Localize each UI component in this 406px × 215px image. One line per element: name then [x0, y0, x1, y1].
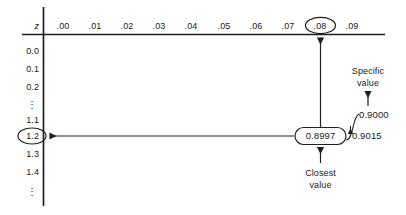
z-table-lookup-figure: z .00 .01 .02 .03 .04 .05 .06 .07 .08 .0…: [0, 0, 406, 215]
figure-linework: [0, 0, 406, 215]
row-header-0-2[interactable]: 0.2: [26, 82, 39, 92]
row-header-1-3[interactable]: 1.3: [26, 149, 39, 159]
column-header-09[interactable]: .09: [346, 21, 359, 31]
table-corner-label: z: [34, 21, 39, 31]
row-header-1-4[interactable]: 1.4: [26, 167, 39, 177]
target-probability-label: 0.9000: [359, 110, 389, 120]
column-header-07[interactable]: .07: [282, 21, 295, 31]
column-header-06[interactable]: .06: [250, 21, 263, 31]
row-header-0-0[interactable]: 0.0: [26, 46, 39, 56]
column-header-08[interactable]: .08: [314, 21, 327, 31]
row-header-1-2[interactable]: 1.2: [26, 131, 39, 141]
specific-value-caption-line2: value: [357, 78, 379, 89]
column-header-00[interactable]: .00: [57, 21, 70, 31]
column-header-02[interactable]: .02: [121, 21, 134, 31]
row-header-ellipsis-bottom: ⋮: [27, 187, 37, 196]
specific-value-caption-line1: Specific: [352, 66, 384, 77]
next-probability-label: 0.9015: [352, 131, 382, 141]
column-header-04[interactable]: .04: [185, 21, 198, 31]
column-header-01[interactable]: .01: [89, 21, 102, 31]
row-header-ellipsis-top: ⋮: [27, 100, 37, 109]
row-header-0-1[interactable]: 0.1: [26, 64, 39, 74]
column-header-03[interactable]: .03: [153, 21, 166, 31]
closest-value-caption-line1: Closest: [305, 168, 336, 179]
table-cell-closest-value[interactable]: 0.8997: [306, 131, 336, 141]
column-header-05[interactable]: .05: [218, 21, 231, 31]
row-header-1-1[interactable]: 1.1: [26, 115, 39, 125]
closest-value-caption-line2: value: [309, 180, 331, 191]
